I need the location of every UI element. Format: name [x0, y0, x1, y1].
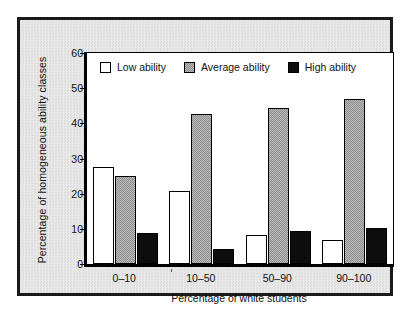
legend-label: Average ability: [201, 61, 270, 73]
bar-50-90-average-ability: [268, 108, 289, 264]
legend-label: High ability: [305, 61, 356, 73]
bar-0-10-average-ability: [115, 176, 136, 264]
y-tick-label: 30: [71, 153, 83, 165]
y-axis-title-text: Percentage of homogeneous ability classe…: [36, 56, 48, 263]
white-square-swatch-icon: [100, 62, 111, 73]
legend-label: Low ability: [117, 61, 166, 73]
y-tick-label: 10: [71, 223, 83, 235]
figure-canvas: Percentage of homogeneous ability classe…: [0, 0, 411, 312]
x-tick-label: 90–100: [336, 272, 371, 284]
y-tick-label: 20: [71, 188, 83, 200]
x-tick-label: 50–90: [263, 272, 292, 284]
chart-frame-border: Percentage of homogeneous ability classe…: [17, 17, 393, 296]
legend-entry-low-ability: Low ability: [100, 61, 166, 73]
bar-0-10-high-ability: [137, 233, 158, 264]
black-square-swatch-icon: [288, 62, 299, 73]
y-axis-title: Percentage of homogeneous ability classe…: [34, 52, 50, 267]
y-tick-label: 50: [71, 82, 83, 94]
legend-entry-high-ability: High ability: [288, 61, 356, 73]
y-tick-label: 40: [71, 117, 83, 129]
bar-10-50-average-ability: [191, 114, 212, 265]
gray-square-swatch-icon: [184, 62, 195, 73]
x-axis-title: Percentage of white students: [84, 292, 394, 304]
bar-90-100-low-ability: [322, 240, 343, 264]
x-tick-label: 10–50: [186, 272, 215, 284]
bar-10-50-high-ability: [213, 249, 234, 264]
bar-90-100-high-ability: [366, 228, 387, 264]
bar-10-50-low-ability: [169, 191, 190, 264]
x-tick-mark: [171, 269, 172, 272]
bar-90-100-average-ability: [344, 99, 365, 264]
legend: Low ability Average ability High ability: [100, 61, 356, 73]
y-tick-label: 60: [71, 47, 83, 59]
y-tick-label: 0: [77, 258, 83, 270]
bar-50-90-low-ability: [246, 235, 267, 264]
plot-area: 0 10 20 30 40 50: [84, 52, 394, 267]
legend-entry-average-ability: Average ability: [184, 61, 270, 73]
bar-50-90-high-ability: [290, 231, 311, 264]
x-tick-label: 0–10: [113, 272, 136, 284]
bar-0-10-low-ability: [93, 167, 114, 264]
